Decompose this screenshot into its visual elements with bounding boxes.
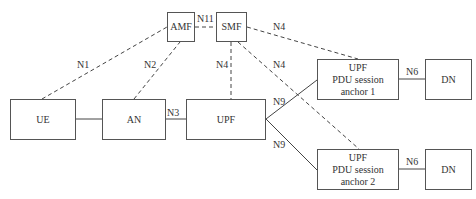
node-upf-anchor-1-line2: PDU session <box>332 74 383 86</box>
edge-label-n9-upper: N9 <box>273 97 285 107</box>
node-dn-2-label: DN <box>441 164 455 176</box>
node-smf: SMF <box>216 12 247 42</box>
edge-label-n4-anchor2: N4 <box>273 60 285 70</box>
edge-label-n11: N11 <box>197 14 214 24</box>
node-upf-anchor-1-line1: UPF <box>349 62 367 74</box>
node-upf-anchor-1: UPF PDU session anchor 1 <box>317 59 399 100</box>
node-upf: UPF <box>186 99 266 140</box>
node-upf-anchor-2-line2: PDU session <box>332 164 383 176</box>
link-n2-an-amf <box>134 42 180 99</box>
node-upf-label: UPF <box>217 114 235 126</box>
edge-label-n9-lower: N9 <box>273 140 285 150</box>
edge-label-n3: N3 <box>167 108 179 118</box>
node-upf-anchor-2-line1: UPF <box>349 152 367 164</box>
edge-label-n6-lower: N6 <box>406 157 418 167</box>
edge-label-n2: N2 <box>144 60 156 70</box>
node-an-label: AN <box>127 114 141 126</box>
node-amf: AMF <box>167 12 195 42</box>
edge-label-n6-upper: N6 <box>406 67 418 77</box>
link-n4-smf-anchor1 <box>247 27 358 59</box>
node-dn-2: DN <box>425 149 472 190</box>
node-dn-1-label: DN <box>441 74 455 86</box>
node-upf-anchor-2: UPF PDU session anchor 2 <box>317 149 399 190</box>
node-upf-anchor-1-line3: anchor 1 <box>341 86 376 98</box>
node-dn-1: DN <box>425 59 472 100</box>
node-ue: UE <box>10 99 76 140</box>
edge-label-n4-upf: N4 <box>216 60 228 70</box>
node-amf-label: AMF <box>170 21 192 33</box>
node-an: AN <box>102 99 166 140</box>
node-upf-anchor-2-line3: anchor 2 <box>341 176 376 188</box>
node-ue-label: UE <box>36 114 49 126</box>
edge-label-n1: N1 <box>77 60 89 70</box>
edge-label-n4-anchor1: N4 <box>273 22 285 32</box>
node-smf-label: SMF <box>221 21 241 33</box>
